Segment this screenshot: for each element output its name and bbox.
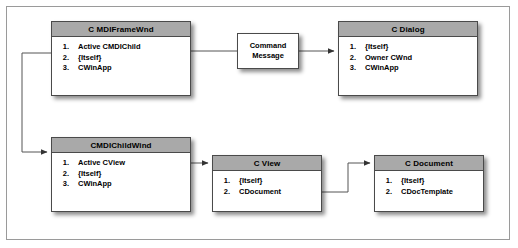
class-box-row: 3. CWinApp bbox=[339, 63, 477, 74]
class-box-title: C Dialog bbox=[339, 22, 477, 37]
class-box-title: C Document bbox=[375, 156, 483, 171]
command-message-box: Command Message bbox=[237, 33, 299, 69]
class-box-row: 2. CDocument bbox=[213, 187, 321, 198]
row-number: 2. bbox=[213, 187, 230, 198]
row-label: Owner CWnd bbox=[365, 53, 412, 64]
class-box-body: 1. Active CView 2. {Itself} 3. CWinApp bbox=[52, 153, 190, 194]
class-box-row: 2. Owner CWnd bbox=[339, 53, 477, 64]
command-message-line-1: Command bbox=[250, 41, 287, 52]
connector-mdiframewnd-to-cmdichildwind bbox=[22, 53, 51, 152]
class-box-row: 3. CWinApp bbox=[52, 63, 190, 74]
class-box-row: 1. {Itself} bbox=[375, 176, 483, 187]
row-label: {Itself} bbox=[239, 176, 262, 187]
class-box-row: 2. {Itself} bbox=[52, 169, 190, 180]
row-number: 1. bbox=[213, 176, 230, 187]
class-box-row: 1. Active CView bbox=[52, 158, 190, 169]
class-box-mdiframewnd: C MDIFrameWnd 1. Active CMDIChild 2. {It… bbox=[51, 21, 191, 96]
row-label: CWinApp bbox=[78, 63, 112, 74]
row-number: 3. bbox=[52, 179, 69, 190]
class-box-cdialog: C Dialog 1. {Itself} 2. Owner CWnd 3. CW… bbox=[338, 21, 478, 96]
row-number: 2. bbox=[52, 169, 69, 180]
class-box-body: 1. {Itself} 2. Owner CWnd 3. CWinApp bbox=[339, 37, 477, 78]
row-number: 1. bbox=[52, 158, 69, 169]
class-box-title: CMDIChildWind bbox=[52, 138, 190, 153]
row-number: 1. bbox=[375, 176, 392, 187]
command-message-line-2: Message bbox=[252, 51, 284, 62]
row-label: Active CMDIChild bbox=[78, 42, 141, 53]
class-box-row: 1. {Itself} bbox=[339, 42, 477, 53]
row-label: CWinApp bbox=[78, 179, 112, 190]
row-number: 2. bbox=[339, 53, 356, 64]
row-label: Active CView bbox=[78, 158, 125, 169]
class-box-body: 1. Active CMDIChild 2. {Itself} 3. CWinA… bbox=[52, 37, 190, 78]
row-number: 1. bbox=[339, 42, 356, 53]
class-box-title: C View bbox=[213, 156, 321, 171]
class-box-title: C MDIFrameWnd bbox=[52, 22, 190, 37]
row-label: {Itself} bbox=[78, 169, 101, 180]
row-number: 3. bbox=[339, 63, 356, 74]
row-label: {Itself} bbox=[401, 176, 424, 187]
class-box-body: 1. {Itself} 2. CDocument bbox=[213, 171, 321, 201]
row-label: CWinApp bbox=[365, 63, 399, 74]
class-box-row: 2. CDocTemplate bbox=[375, 187, 483, 198]
class-box-row: 3. CWinApp bbox=[52, 179, 190, 190]
row-number: 2. bbox=[52, 53, 69, 64]
row-label: CDocument bbox=[239, 187, 281, 198]
class-box-cdocument: C Document 1. {Itself} 2. CDocTemplate bbox=[374, 155, 484, 212]
row-number: 2. bbox=[375, 187, 392, 198]
row-label: {Itself} bbox=[78, 53, 101, 64]
row-label: CDocTemplate bbox=[401, 187, 453, 198]
row-number: 3. bbox=[52, 63, 69, 74]
class-box-body: 1. {Itself} 2. CDocTemplate bbox=[375, 171, 483, 201]
diagram-canvas: C MDIFrameWnd 1. Active CMDIChild 2. {It… bbox=[0, 0, 518, 248]
class-box-row: 1. Active CMDIChild bbox=[52, 42, 190, 53]
class-box-row: 1. {Itself} bbox=[213, 176, 321, 187]
class-box-cview: C View 1. {Itself} 2. CDocument bbox=[212, 155, 322, 212]
class-box-cmdichildwind: CMDIChildWind 1. Active CView 2. {Itself… bbox=[51, 137, 191, 212]
row-number: 1. bbox=[52, 42, 69, 53]
row-label: {Itself} bbox=[365, 42, 388, 53]
class-box-row: 2. {Itself} bbox=[52, 53, 190, 64]
